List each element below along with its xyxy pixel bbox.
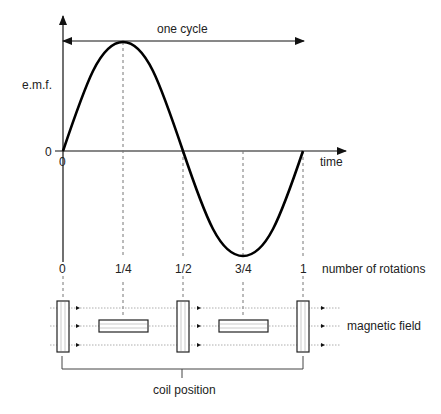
- y-zero-label: 0: [45, 145, 52, 159]
- rotation-quarter: 1/4: [115, 262, 132, 276]
- diagram-canvas: one cycle e.m.f. 0 0 time 0 1/4 1/2 3/4 …: [0, 0, 441, 414]
- coil-0: [57, 301, 69, 352]
- number-of-rotations-label: number of rotations: [322, 262, 425, 276]
- coil-position-bracket: [62, 356, 303, 378]
- coil-position-label: coil position: [153, 383, 216, 397]
- one-cycle-label: one cycle: [157, 22, 208, 36]
- coil-half: [177, 301, 189, 352]
- emf-diagram: one cycle e.m.f. 0 0 time 0 1/4 1/2 3/4 …: [0, 0, 441, 414]
- coil-three-quarter: [219, 320, 268, 332]
- magnetic-field-label: magnetic field: [347, 319, 421, 333]
- coil-1: [297, 301, 309, 352]
- rotation-1: 1: [300, 262, 307, 276]
- guide-lines: [63, 42, 303, 318]
- rotation-0: 0: [59, 262, 66, 276]
- coils: [57, 301, 309, 352]
- rotation-half: 1/2: [175, 262, 192, 276]
- emf-label: e.m.f.: [22, 78, 52, 92]
- rotation-three-quarter: 3/4: [235, 262, 252, 276]
- coil-quarter: [99, 320, 148, 332]
- time-label: time: [320, 155, 343, 169]
- x-zero-label: 0: [59, 155, 66, 169]
